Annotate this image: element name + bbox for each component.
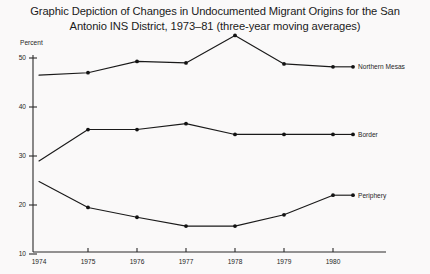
series-line	[39, 35, 333, 75]
series-line	[39, 124, 333, 161]
series-data-point	[86, 128, 90, 132]
x-ticks-group: 1974197519761977197819791980	[32, 248, 341, 265]
y-tick-label: 30	[19, 152, 27, 159]
series-label-border: Border	[358, 131, 379, 138]
series-data-point	[233, 133, 237, 137]
x-tick-label: 1974	[32, 258, 47, 265]
series-data-point	[184, 122, 188, 126]
y-tick-label: 50	[19, 54, 27, 61]
series-end-marker	[351, 133, 355, 137]
series-data-point	[233, 34, 237, 38]
series-label-periphery: Periphery	[358, 192, 387, 200]
series-end-marker	[351, 193, 355, 197]
series-northern-mesas: Northern Mesas	[39, 34, 406, 76]
y-tick-label: 10	[19, 250, 27, 257]
series-periphery: Periphery	[39, 181, 387, 227]
series-data-point	[233, 224, 237, 228]
series-label-northern-mesas: Northern Mesas	[358, 63, 406, 70]
series-data-point	[184, 224, 188, 228]
y-tick-label: 20	[19, 201, 27, 208]
series-data-point	[135, 215, 139, 219]
chart-plot: Percent504030201019741975197619771978197…	[0, 0, 430, 274]
series-data-point	[86, 71, 90, 75]
axes-group	[33, 55, 386, 252]
series-data-point	[282, 62, 286, 66]
series-data-point	[135, 60, 139, 64]
x-tick-label: 1976	[130, 258, 145, 265]
series-data-point	[184, 61, 188, 65]
y-axis-unit-label: Percent	[20, 39, 43, 46]
series-end-marker	[351, 65, 355, 69]
series-data-point	[282, 213, 286, 217]
y-tick-label: 40	[19, 103, 27, 110]
x-tick-label: 1978	[228, 258, 243, 265]
x-tick-label: 1979	[277, 258, 292, 265]
x-tick-label: 1980	[326, 258, 341, 265]
series-data-point	[282, 133, 286, 137]
x-tick-label: 1977	[179, 258, 194, 265]
series-line	[39, 181, 333, 226]
chart-figure: Graphic Depiction of Changes in Undocume…	[0, 0, 430, 274]
x-tick-label: 1975	[81, 258, 96, 265]
series-data-point	[135, 128, 139, 132]
y-ticks-group: 5040302010	[19, 54, 37, 257]
series-data-point	[86, 206, 90, 210]
series-border: Border	[39, 122, 379, 161]
